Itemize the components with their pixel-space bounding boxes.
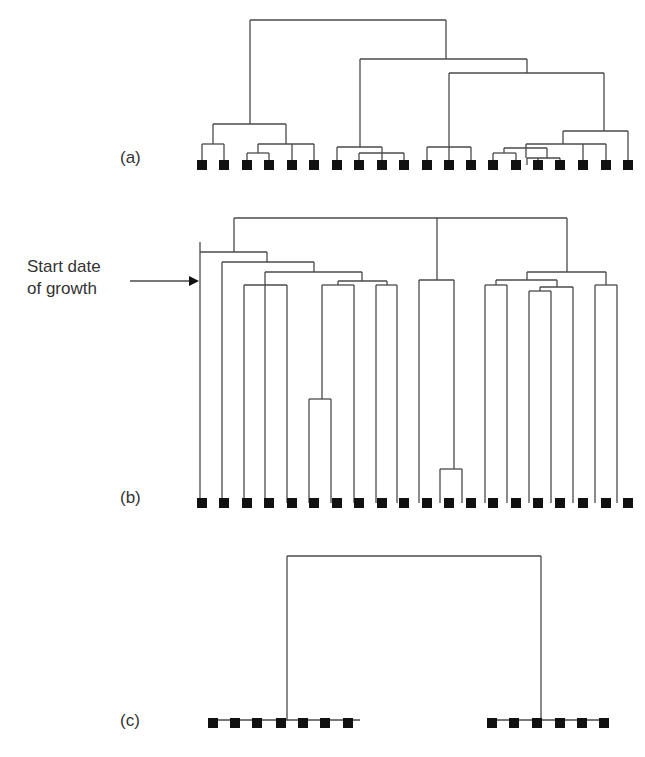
dendrogram-c <box>208 556 609 728</box>
annotation-line-1: Start date <box>27 256 101 278</box>
leaf-node <box>276 718 286 728</box>
annotation-line-2: of growth <box>27 278 101 300</box>
leaf-node <box>242 498 252 508</box>
dendrogram-figure: (a) (b) (c) Start date of growth <box>0 0 645 757</box>
leaf-node <box>377 160 387 170</box>
leaf-node <box>578 498 588 508</box>
leaf-node <box>422 498 432 508</box>
leaf-node <box>578 160 588 170</box>
leaf-node <box>601 498 611 508</box>
leaf-node <box>332 160 342 170</box>
leaf-node <box>309 160 319 170</box>
leaf-node <box>197 160 207 170</box>
right-arrow-icon <box>130 276 199 286</box>
leaf-node <box>354 160 364 170</box>
dendrogram-b <box>197 218 633 508</box>
leaf-node <box>332 498 342 508</box>
leaf-node <box>487 718 497 728</box>
leaf-node <box>533 498 543 508</box>
panel-label-a: (a) <box>120 148 141 168</box>
leaf-node <box>555 160 565 170</box>
leaf-node <box>377 498 387 508</box>
leaf-node <box>533 160 543 170</box>
start-date-annotation: Start date of growth <box>27 256 101 300</box>
leaf-node <box>623 498 633 508</box>
panel-label-b: (b) <box>120 488 141 508</box>
leaf-node <box>354 498 364 508</box>
dendrogram-canvas <box>0 0 645 757</box>
leaf-node <box>230 718 240 728</box>
leaf-node <box>219 498 229 508</box>
leaf-node <box>444 160 454 170</box>
leaf-node <box>488 160 498 170</box>
leaf-node <box>264 498 274 508</box>
leaf-node <box>577 718 587 728</box>
leaf-node <box>298 718 308 728</box>
leaf-node <box>399 160 409 170</box>
leaf-node <box>466 160 476 170</box>
leaf-node <box>466 498 476 508</box>
leaf-node <box>444 498 454 508</box>
leaf-node <box>601 160 611 170</box>
leaf-node <box>320 718 330 728</box>
leaf-node <box>399 498 409 508</box>
leaf-node <box>555 498 565 508</box>
leaf-node <box>242 160 252 170</box>
leaf-node <box>264 160 274 170</box>
leaf-node <box>509 718 519 728</box>
leaf-node <box>343 718 353 728</box>
leaf-node <box>555 718 565 728</box>
leaf-node <box>422 160 432 170</box>
leaf-node <box>252 718 262 728</box>
leaf-node <box>208 718 218 728</box>
leaf-node <box>511 498 521 508</box>
leaf-node <box>511 160 521 170</box>
panel-label-c: (c) <box>120 711 140 731</box>
leaf-node <box>488 498 498 508</box>
dendrogram-a <box>197 20 633 170</box>
leaf-node <box>197 498 207 508</box>
leaf-node <box>287 498 297 508</box>
leaf-node <box>219 160 229 170</box>
leaf-node <box>309 498 319 508</box>
leaf-node <box>623 160 633 170</box>
leaf-node <box>599 718 609 728</box>
leaf-node <box>287 160 297 170</box>
leaf-node <box>532 718 542 728</box>
